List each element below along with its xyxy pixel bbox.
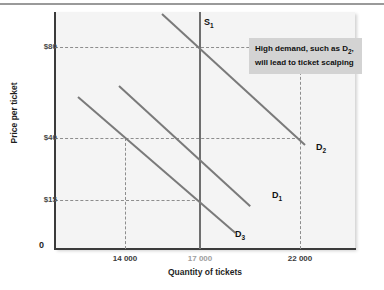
x-tick-label-14000: 14 000 [97,254,153,263]
x-axis-title: Quantity of tickets [55,267,355,277]
series-label-d3: D3 [235,229,245,241]
y-origin-label: 0 [39,240,44,250]
gridline-x-22000 [300,47,301,249]
gridline-x-14000 [125,138,126,249]
series-label-d3-sub: 3 [242,234,246,241]
x-tick-label-17000: 17 000 [172,254,228,263]
y-tick-label-15: $15 [44,195,57,204]
annotation-text-part1: High demand, such as [255,44,342,53]
header-rule [0,3,384,5]
y-tick-label-40: $40 [44,133,57,142]
x-tick-label-22000: 22 000 [272,254,328,263]
series-label-d2: D2 [316,142,326,154]
y-tick-label-80: $80 [44,42,57,51]
series-label-s1-sub: 1 [210,22,214,29]
gridline-y-15 [55,200,200,201]
series-label-d1: D1 [272,190,282,202]
y-axis-title: Price per ticket [9,73,19,153]
x-axis-line [54,248,356,250]
annotation-scalping-note: High demand, such as D2, will lead to ti… [249,38,362,74]
series-label-s1: S1 [204,17,214,29]
series-label-d1-sub: 1 [279,195,283,202]
series-label-d2-sub: 2 [323,147,327,154]
chart-figure: $80 $40 $15 0 14 000 17 000 22 000 Price… [0,0,384,290]
